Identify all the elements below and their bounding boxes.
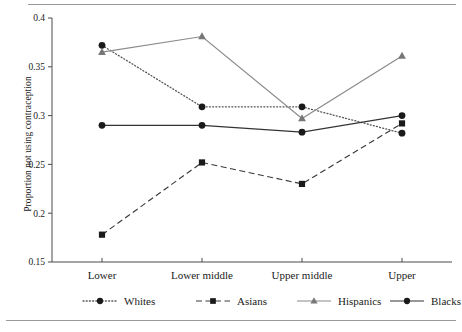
data-point-marker bbox=[310, 297, 317, 303]
legend-label: Whites bbox=[124, 295, 155, 307]
y-tick-label: 0.15 bbox=[28, 257, 45, 267]
data-point-marker bbox=[97, 298, 103, 304]
y-tick-label: 0.2 bbox=[33, 209, 45, 219]
y-tick-label: 0.4 bbox=[33, 13, 45, 23]
legend-label: Blacks bbox=[431, 295, 461, 307]
series-line bbox=[102, 45, 402, 133]
data-point-marker bbox=[99, 232, 105, 238]
legend-label: Hispanics bbox=[338, 295, 381, 307]
y-axis-label: Proportion not using contraception bbox=[23, 39, 33, 249]
x-axis-category-label: Lower middle bbox=[171, 269, 233, 281]
data-point-marker bbox=[199, 122, 206, 129]
axes-layer: 0.150.20.250.30.350.4 bbox=[28, 13, 452, 267]
data-point-marker bbox=[210, 298, 216, 304]
x-axis-category-label: Upper bbox=[388, 269, 416, 281]
axis-lines bbox=[52, 18, 452, 262]
y-tick-label: 0.3 bbox=[33, 111, 45, 121]
data-point-marker bbox=[299, 181, 305, 187]
line-chart: 0.150.20.250.30.350.4 LowerLower middleU… bbox=[0, 0, 462, 332]
series-asians bbox=[99, 120, 405, 237]
x-axis-category-label: Upper middle bbox=[272, 269, 333, 281]
series-layer bbox=[98, 32, 406, 237]
series-blacks bbox=[99, 112, 406, 135]
figure-container: Proportion not using contraception 0.150… bbox=[0, 0, 462, 332]
legend-item-asians[interactable]: Asians bbox=[196, 295, 267, 307]
data-point-marker bbox=[399, 130, 406, 137]
data-point-marker bbox=[198, 32, 206, 39]
series-line bbox=[102, 116, 402, 133]
data-point-marker bbox=[298, 114, 306, 121]
data-point-marker bbox=[299, 103, 306, 110]
series-hispanics bbox=[98, 32, 406, 121]
x-axis-labels: LowerLower middleUpper middleUpper bbox=[88, 269, 416, 281]
x-axis-category-label: Lower bbox=[88, 269, 117, 281]
top-rule bbox=[28, 4, 456, 5]
bottom-rule bbox=[6, 320, 456, 321]
data-point-marker bbox=[399, 112, 406, 119]
data-point-marker bbox=[398, 52, 406, 59]
series-line bbox=[102, 123, 402, 234]
data-point-marker bbox=[399, 120, 405, 126]
legend-label: Asians bbox=[237, 295, 267, 307]
chart-legend: WhitesAsiansHispanicsBlacks bbox=[83, 295, 461, 307]
legend-item-whites[interactable]: Whites bbox=[83, 295, 155, 307]
data-point-marker bbox=[199, 103, 206, 110]
legend-item-blacks[interactable]: Blacks bbox=[390, 295, 461, 307]
data-point-marker bbox=[199, 159, 205, 165]
data-point-marker bbox=[99, 42, 106, 49]
data-point-marker bbox=[404, 298, 410, 304]
legend-item-hispanics[interactable]: Hispanics bbox=[297, 295, 381, 307]
data-point-marker bbox=[299, 129, 306, 136]
data-point-marker bbox=[99, 122, 106, 129]
